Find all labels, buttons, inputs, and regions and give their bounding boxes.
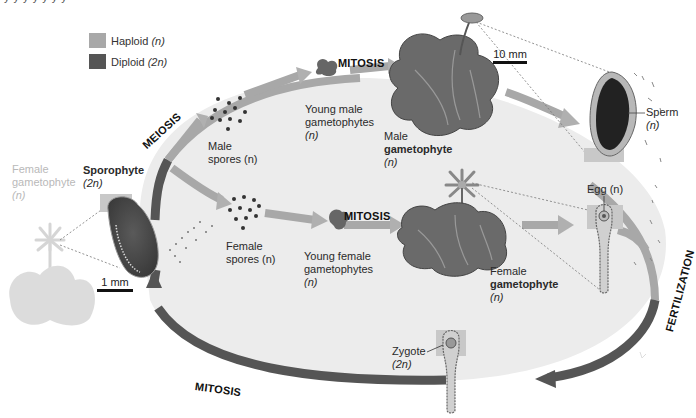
stage-mitosis-top: MITOSIS <box>338 57 384 69</box>
scale-bar-1mm: 1 mm <box>97 276 133 292</box>
haploid-swatch <box>89 33 106 48</box>
label-female-gametophyte-faded: Female gametophyte (n) <box>12 163 76 202</box>
label-male-gametophyte: Male gametophyte (n) <box>384 130 452 169</box>
scale-bar-line <box>493 61 527 64</box>
young-male-gametophyte <box>316 59 337 76</box>
male-gametophyte-plant <box>390 13 499 136</box>
label-young-male-gametophytes: Young male gametophytes (n) <box>305 103 374 142</box>
legend-label-haploid: Haploid <box>111 35 148 47</box>
scale-bar-line <box>97 289 133 292</box>
scale-bar-10mm: 10 mm <box>493 48 527 64</box>
page-artifact-mark <box>640 352 646 358</box>
legend-suffix-haploid: (n) <box>151 35 164 47</box>
antheridium-sperm-container <box>584 72 636 162</box>
legend-item-diploid: Diploid (2n) <box>89 54 167 69</box>
label-zygote: Zygote (2n) <box>392 345 426 371</box>
label-egg: Egg (n) <box>587 183 623 196</box>
top-cutoff-text: y y y y y y y <box>4 0 67 3</box>
label-male-spores: Male spores (n) <box>208 140 258 166</box>
label-female-spores: Female spores (n) <box>226 240 276 266</box>
stage-mitosis-middle: MITOSIS <box>344 210 390 222</box>
legend-suffix-diploid: (2n) <box>148 56 168 68</box>
label-sporophyte: Sporophyte (2n) <box>83 164 144 190</box>
label-female-gametophyte: Female gametophyte (n) <box>490 265 558 304</box>
legend-item-haploid: Haploid (n) <box>89 33 165 48</box>
label-young-female-gametophytes: Young female gametophytes (n) <box>304 250 373 289</box>
legend-label-diploid: Diploid <box>111 56 145 68</box>
faded-female-gametophyte <box>9 224 95 325</box>
label-sperm: Sperm (n) <box>646 106 678 132</box>
diploid-swatch <box>89 54 106 69</box>
